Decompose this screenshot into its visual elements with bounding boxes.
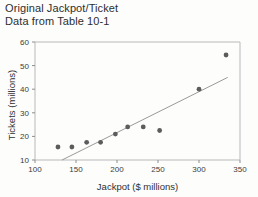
data-point: [56, 145, 61, 150]
y-tick-label: 40: [20, 85, 29, 94]
data-point: [141, 125, 146, 130]
y-tick-label: 30: [20, 109, 29, 118]
chart-title-line-2: Data from Table 10-1: [5, 15, 118, 28]
x-tick-label: 300: [192, 165, 206, 174]
data-point: [157, 128, 162, 133]
x-tick-label: 100: [28, 165, 42, 174]
data-point: [125, 125, 130, 130]
y-tick-label: 20: [20, 132, 29, 141]
chart-title-line-1: Original Jackpot/Ticket: [5, 2, 118, 15]
x-axis-label: Jackpot ($ millions): [97, 181, 178, 192]
y-tick-label: 60: [20, 38, 29, 47]
plot-frame: [35, 42, 240, 160]
data-points: [56, 53, 229, 150]
y-tick-label: 10: [20, 156, 29, 165]
scatter-plot-container: 102030405060 100150200250300350 Jackpot …: [0, 30, 258, 197]
data-point: [113, 132, 118, 137]
chart-page: Original Jackpot/Ticket Data from Table …: [0, 0, 258, 197]
y-axis-label: Tickets (millions): [6, 70, 17, 140]
y-axis: 102030405060: [20, 38, 35, 165]
x-tick-label: 200: [110, 165, 124, 174]
x-tick-label: 250: [151, 165, 165, 174]
y-tick-label: 50: [20, 62, 29, 71]
x-axis: 100150200250300350: [28, 160, 247, 174]
data-point: [70, 145, 75, 150]
trend-line: [62, 77, 228, 160]
x-tick-label: 150: [69, 165, 83, 174]
data-point: [84, 140, 89, 145]
scatter-plot-svg: 102030405060 100150200250300350 Jackpot …: [0, 30, 258, 197]
chart-title-block: Original Jackpot/Ticket Data from Table …: [5, 2, 118, 29]
data-point: [197, 87, 202, 92]
x-tick-label: 350: [233, 165, 247, 174]
data-point: [224, 53, 229, 58]
data-point: [98, 140, 103, 145]
